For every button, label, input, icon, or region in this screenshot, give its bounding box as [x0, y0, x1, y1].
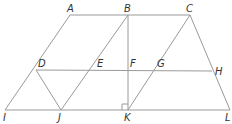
label-C: C — [186, 3, 193, 14]
label-E: E — [97, 58, 104, 69]
segment-DJ — [36, 70, 61, 110]
label-J: J — [56, 112, 61, 123]
point-labels: ABCDEFGHIJKL — [3, 3, 231, 123]
label-H: H — [215, 66, 223, 77]
right-angle-mark — [122, 104, 128, 110]
label-K: K — [124, 112, 132, 123]
label-I: I — [3, 112, 6, 123]
label-F: F — [130, 58, 136, 69]
label-G: G — [157, 58, 165, 69]
geometry-diagram: ABCDEFGHIJKL — [0, 0, 232, 124]
label-D: D — [38, 58, 46, 69]
label-L: L — [225, 112, 231, 123]
label-B: B — [124, 3, 131, 14]
segment-DH — [36, 70, 212, 71]
segment-CL — [190, 15, 230, 110]
segment-BJ — [61, 15, 128, 110]
right-angle-icon — [122, 104, 128, 110]
label-A: A — [66, 3, 74, 14]
